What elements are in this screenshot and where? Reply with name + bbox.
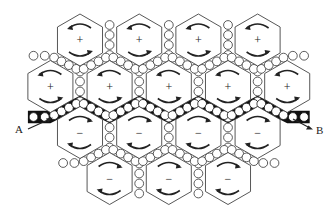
particle — [135, 179, 144, 188]
particle — [288, 51, 297, 60]
particle — [105, 31, 114, 40]
minus-sign: − — [254, 126, 261, 140]
plus-sign: + — [165, 80, 172, 94]
particle — [270, 159, 279, 168]
particle — [70, 159, 79, 168]
minus-sign: − — [106, 172, 113, 186]
minus-sign: − — [165, 172, 172, 186]
particle — [105, 21, 114, 30]
particle — [224, 133, 233, 142]
particle — [105, 41, 114, 50]
plus-sign: + — [284, 80, 291, 94]
particle — [224, 123, 233, 132]
particle — [76, 87, 85, 96]
plus-sign: + — [106, 80, 113, 94]
label-b: B — [316, 124, 323, 136]
particle — [40, 51, 49, 60]
minus-sign: − — [77, 126, 84, 140]
particle — [164, 31, 173, 40]
minus-sign: − — [136, 126, 143, 140]
minus-sign: − — [225, 172, 232, 186]
current-particle — [300, 113, 309, 122]
particle — [105, 133, 114, 142]
particle — [76, 77, 85, 86]
particle — [59, 159, 68, 168]
particle — [105, 123, 114, 132]
plus-sign: + — [254, 33, 261, 47]
particle — [194, 77, 203, 86]
particle — [29, 51, 38, 60]
particle — [224, 31, 233, 40]
particle — [253, 77, 262, 86]
particle — [164, 21, 173, 30]
particle — [164, 41, 173, 50]
particle — [194, 179, 203, 188]
plus-sign: + — [77, 33, 84, 47]
particle — [300, 51, 309, 60]
plus-sign: + — [195, 33, 202, 47]
plus-sign: + — [47, 80, 54, 94]
particle — [224, 21, 233, 30]
particle — [194, 189, 203, 198]
particle — [135, 189, 144, 198]
particle — [253, 87, 262, 96]
particle — [164, 123, 173, 132]
particle — [164, 133, 173, 142]
plus-sign: + — [136, 33, 143, 47]
particle — [194, 87, 203, 96]
particle — [135, 87, 144, 96]
current-particle — [29, 113, 38, 122]
particle — [194, 169, 203, 178]
minus-sign: − — [195, 126, 202, 140]
particle — [135, 169, 144, 178]
particle — [224, 41, 233, 50]
plus-sign: + — [225, 80, 232, 94]
particle — [135, 77, 144, 86]
vortex-hexagon-diagram: +++++++++−−−−−−− A B — [0, 0, 335, 211]
label-a: A — [15, 123, 23, 135]
particle — [259, 159, 268, 168]
